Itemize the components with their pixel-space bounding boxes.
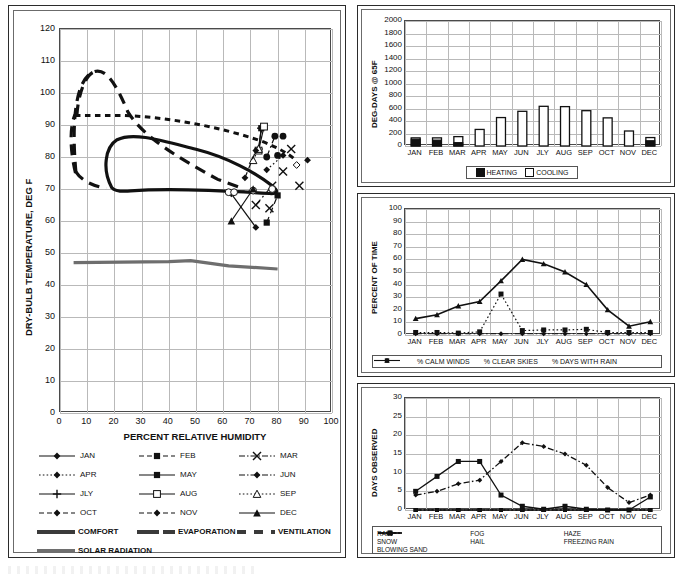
legend-swatch-icon <box>237 451 277 461</box>
legend-label: % CALM WINDS <box>417 358 470 365</box>
degday-y-tick: 1000 <box>372 79 402 87</box>
legend-item-mar: MAR <box>237 451 337 461</box>
days-observed-plot-area <box>404 397 660 509</box>
main-y-tick: 20 <box>25 344 55 353</box>
days-x-tick: DEC <box>636 513 662 521</box>
legend-item-jly: JLY <box>37 489 137 499</box>
legend-item-feb: FEB <box>137 451 237 461</box>
main-x-tick: 10 <box>72 417 100 426</box>
degday-y-tick: 0 <box>372 141 402 149</box>
main-x-tick: 50 <box>181 417 209 426</box>
days-observed-chart-panel: DAYS OBSERVED 302520151050 JANFEBMARAPRM… <box>357 383 675 558</box>
legend-item-ventilation: VENTILATION <box>237 527 337 536</box>
pct-legend-items: % CALM WINDS% CLEAR SKIES% DAYS WITH RAI… <box>373 356 661 367</box>
legend-label-cooling: COOLING <box>536 169 568 176</box>
legend-label: HAZE <box>564 530 581 537</box>
legend-swatch-icon <box>137 451 177 461</box>
degday-bars-layer <box>405 21 661 146</box>
legend-swatch-icon <box>237 489 277 499</box>
pct-y-tick: 10 <box>376 317 402 325</box>
legend-label: SEP <box>280 489 296 498</box>
degday-y-tick: 400 <box>372 116 402 124</box>
pct-y-tick: 40 <box>376 280 402 288</box>
main-x-tick: 100 <box>317 417 345 426</box>
main-x-tick: 30 <box>127 417 155 426</box>
legend-swatch-icon <box>137 508 177 518</box>
legend-label: MAR <box>280 451 298 460</box>
days-y-tick: 20 <box>378 430 402 438</box>
main-x-tick: 20 <box>99 417 127 426</box>
legend-item-haze: HAZE <box>564 530 657 537</box>
pct-y-tick: 80 <box>376 229 402 237</box>
legend-item-comfort: COMFORT <box>37 527 137 536</box>
pct-legend-box: % CALM WINDS% CLEAR SKIES% DAYS WITH RAI… <box>372 355 662 368</box>
pct-y-axis-title: PERCENT OF TIME <box>370 241 379 314</box>
legend-label: EVAPORATION <box>178 527 235 536</box>
pct-y-tick: 20 <box>376 305 402 313</box>
days-y-tick: 15 <box>378 449 402 457</box>
degday-x-tick: DEC <box>636 149 662 157</box>
main-data-layer <box>60 29 332 413</box>
legend-item-clear-skies: % CLEAR SKIES <box>484 358 538 365</box>
legend-row: RAINFOGHAZE <box>377 529 657 537</box>
main-x-tick: 70 <box>235 417 263 426</box>
days-y-tick: 30 <box>378 393 402 401</box>
psychrometric-chart-panel: DRY-BULB TEMPERATURE, DEG F 120110100908… <box>8 5 346 558</box>
degday-y-tick: 1600 <box>372 41 402 49</box>
main-x-tick: 0 <box>45 417 73 426</box>
main-x-tick: 40 <box>154 417 182 426</box>
heating-swatch-icon <box>476 168 485 177</box>
pct-y-tick: 50 <box>376 267 402 275</box>
legend-label: MAY <box>180 470 197 479</box>
main-y-tick: 50 <box>25 248 55 257</box>
days-lines-layer <box>405 398 661 510</box>
legend-item-jan: JAN <box>37 451 137 461</box>
main-y-tick: 70 <box>25 184 55 193</box>
legend-item-evaporation: EVAPORATION <box>137 527 237 536</box>
legend-label: HAIL <box>470 538 484 545</box>
thick-line-icon <box>37 549 75 553</box>
percent-of-time-plot-area <box>404 208 660 334</box>
main-x-tick: 90 <box>290 417 318 426</box>
main-y-tick: 110 <box>25 56 55 65</box>
legend-label: AUG <box>180 489 197 498</box>
legend-item-cooling: COOLING <box>525 168 568 177</box>
legend-item-sep: SEP <box>237 489 337 499</box>
legend-label: JUN <box>280 470 296 479</box>
legend-swatch-icon <box>37 470 77 480</box>
legend-item-apr: APR <box>37 470 137 480</box>
degday-y-tick: 600 <box>372 104 402 112</box>
legend-item-heating: HEATING <box>476 168 518 177</box>
pct-y-tick: 100 <box>376 204 402 212</box>
legend-swatch-icon <box>237 508 277 518</box>
main-x-tick: 80 <box>263 417 291 426</box>
legend-swatch-icon <box>37 508 77 518</box>
legend-label: FREEZING RAIN <box>564 538 614 545</box>
legend-item-dec: DEC <box>237 508 337 518</box>
legend-item-oct: OCT <box>37 508 137 518</box>
degday-y-tick: 2000 <box>372 16 402 24</box>
main-y-tick: 40 <box>25 280 55 289</box>
pct-x-tick: DEC <box>636 338 662 346</box>
degday-y-tick: 1800 <box>372 29 402 37</box>
legend-item-snow: SNOW <box>377 538 470 545</box>
legend-label: FOG <box>470 530 484 537</box>
pct-y-tick: 90 <box>376 217 402 225</box>
main-y-tick: 60 <box>25 216 55 225</box>
days-y-tick: 0 <box>378 505 402 513</box>
legend-row: JANFEBMAR <box>37 446 337 465</box>
legend-label: OCT <box>80 508 97 517</box>
legend-label: COMFORT <box>78 527 118 536</box>
legend-label: BLOWING SAND <box>377 546 428 553</box>
legend-item-freezing-rain: FREEZING RAIN <box>564 538 657 545</box>
legend-item-may: MAY <box>137 470 237 480</box>
legend-row: SNOWHAILFREEZING RAIN <box>377 537 657 545</box>
legend-item-days-with-rain: % DAYS WITH RAIN <box>552 358 617 365</box>
legend-label: SNOW <box>377 538 397 545</box>
legend-item-calm-winds: % CALM WINDS <box>417 358 470 365</box>
legend-swatch-icon <box>37 451 77 461</box>
legend-row: COMFORTEVAPORATIONVENTILATION <box>37 522 337 541</box>
legend-row: APRMAYJUN <box>37 465 337 484</box>
main-y-tick: 80 <box>25 152 55 161</box>
legend-item-nov: NOV <box>137 508 237 518</box>
